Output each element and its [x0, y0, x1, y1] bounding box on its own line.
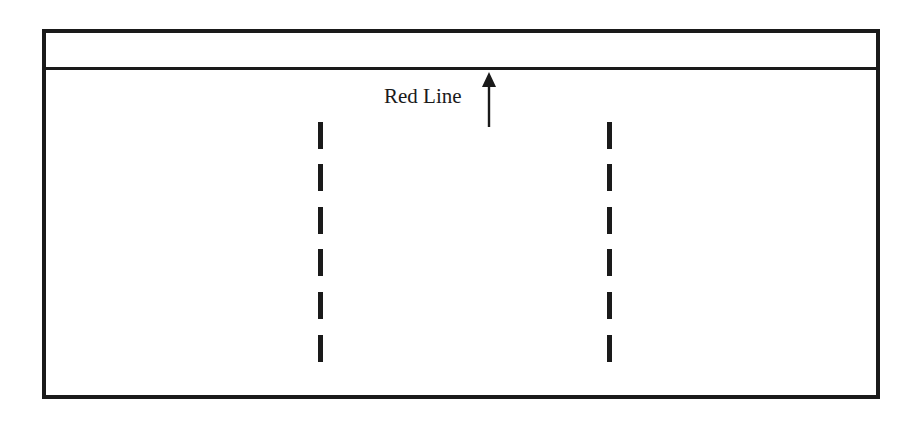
dash	[607, 335, 612, 362]
dash	[318, 249, 323, 276]
dash	[607, 207, 612, 234]
dash	[318, 292, 323, 319]
dash	[318, 335, 323, 362]
dash	[318, 164, 323, 191]
dash	[607, 164, 612, 191]
dash	[318, 207, 323, 234]
red-line-label: Red Line	[384, 86, 462, 107]
dash	[607, 122, 612, 149]
red-line-divider	[42, 67, 880, 70]
dash	[607, 292, 612, 319]
dash	[318, 122, 323, 149]
dash	[607, 249, 612, 276]
arrow-up-icon	[480, 72, 498, 128]
